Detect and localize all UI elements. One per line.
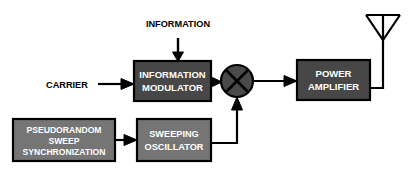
pseudorandom-label-line3: SYNCHRONIZATION	[23, 147, 106, 157]
information-modulator-label-line1: INFORMATION	[139, 69, 205, 80]
sweeping-oscillator-label-line1: SWEEPING	[149, 129, 199, 139]
power-amplifier-body[interactable]	[297, 60, 370, 100]
connector-sync-to-oscillator	[115, 135, 137, 146]
power-amplifier-label-line2: AMPLIFIER	[308, 81, 359, 92]
pseudorandom-label-line2: SWEEP	[48, 136, 79, 146]
mixer-icon[interactable]	[221, 65, 253, 97]
sweeping-oscillator-label-line2: OSCILLATOR	[145, 142, 204, 152]
diagram-canvas: INFORMATION MODULATOR POWER AMPLIFIER PS…	[0, 0, 408, 173]
connector-oscillator-to-mixer	[211, 97, 243, 143]
information-modulator-body[interactable]	[134, 61, 211, 101]
block-pseudorandom-sweep-synchronization[interactable]: PSEUDORANDOM SWEEP SYNCHRONIZATION	[13, 119, 115, 161]
connector-mixer-to-amplifier	[253, 76, 297, 87]
sweeping-oscillator-body[interactable]	[137, 119, 211, 161]
block-information-modulator[interactable]: INFORMATION MODULATOR	[134, 61, 211, 101]
power-amplifier-label-line1: POWER	[316, 68, 352, 79]
connector-amplifier-to-antenna	[370, 46, 383, 88]
block-power-amplifier[interactable]: POWER AMPLIFIER	[297, 60, 370, 100]
carrier-input-label: CARRIER	[46, 80, 88, 90]
antenna-icon	[366, 15, 400, 46]
information-modulator-label-line2: MODULATOR	[142, 82, 203, 93]
connector-information-to-modulator	[173, 38, 184, 62]
block-diagram: INFORMATION MODULATOR POWER AMPLIFIER PS…	[0, 0, 408, 173]
information-input-label: INFORMATION	[146, 19, 210, 29]
pseudorandom-label-line1: PSEUDORANDOM	[27, 125, 102, 135]
connector-carrier-to-modulator	[98, 79, 134, 90]
block-sweeping-oscillator[interactable]: SWEEPING OSCILLATOR	[137, 119, 211, 161]
